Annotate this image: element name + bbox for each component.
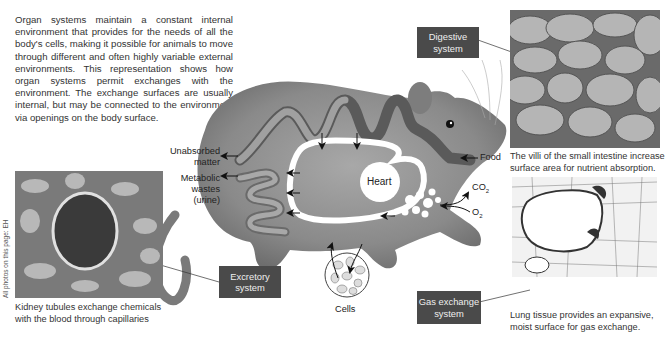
kidney-caption: Kidney tubules exchange chemicalswith th…	[15, 301, 175, 325]
gas-exchange-system-box: Gas exchangesystem	[417, 291, 481, 324]
villi-caption: The villi of the small intestine increas…	[510, 150, 669, 174]
food-label: Food	[480, 152, 501, 163]
unabsorbed-matter-label: Unabsorbed matter	[168, 146, 220, 168]
cells-label: Cells	[335, 304, 355, 315]
heart-label: Heart	[367, 176, 391, 187]
co2-label: CO2	[472, 182, 489, 197]
cells-diagram	[325, 244, 369, 297]
o2-label: O2	[472, 207, 483, 222]
kidney-tubules-photo	[15, 171, 163, 298]
lung-caption: Lung tissue provides an expansive,moist …	[510, 309, 669, 333]
photo-credit: All photos on this page: EH	[2, 220, 9, 298]
villi-photo	[510, 10, 660, 148]
lung-tissue-photo	[512, 177, 657, 277]
gas-leader-line	[475, 290, 530, 303]
metabolic-wastes-label: Metabolic wastes (urine)	[168, 173, 220, 206]
excretory-system-box: Excretorysystem	[219, 266, 281, 298]
rat-eye	[446, 120, 454, 128]
digestive-system-box: Digestivesystem	[417, 27, 479, 58]
